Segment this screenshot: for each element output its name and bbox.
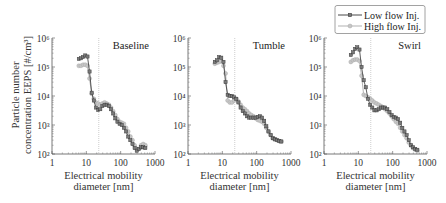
legend: Low flow Inj. High flow Inj. xyxy=(335,6,425,34)
x-tick-label: 1000 xyxy=(146,158,165,168)
data-point xyxy=(88,70,91,73)
data-point xyxy=(122,126,125,129)
x-tick-label: 10 xyxy=(354,158,364,168)
x-axis-label: Electrical mobility xyxy=(200,170,279,181)
data-point xyxy=(112,112,115,115)
y-tick-label: 10⁴ xyxy=(37,92,51,102)
data-point xyxy=(239,106,242,109)
data-point xyxy=(224,81,227,84)
data-point xyxy=(401,126,404,129)
data-point xyxy=(399,121,402,124)
data-point xyxy=(405,133,408,136)
data-point xyxy=(280,140,283,143)
data-point xyxy=(358,48,361,51)
data-point xyxy=(364,86,367,89)
data-point xyxy=(269,133,272,136)
data-point xyxy=(235,97,238,100)
data-point xyxy=(265,125,268,128)
panel-title: Tumble xyxy=(253,40,286,51)
x-axis-label: Electrical mobility xyxy=(64,170,143,181)
y-tick-label: 10⁶ xyxy=(37,34,50,44)
data-point xyxy=(131,142,134,145)
data-point xyxy=(237,101,240,104)
y-tick-label: 10⁶ xyxy=(173,34,186,44)
y-tick-label: 10⁶ xyxy=(309,34,322,44)
x-axis-label: Electrical mobility xyxy=(336,170,415,181)
data-point xyxy=(124,130,127,133)
data-point xyxy=(88,77,92,81)
data-point xyxy=(260,116,263,119)
data-point xyxy=(267,130,270,133)
data-point xyxy=(215,59,218,62)
y-tick-label: 10² xyxy=(173,150,186,160)
y-tick-label: 10³ xyxy=(37,121,50,131)
x-tick-label: 1000 xyxy=(282,158,301,168)
legend-label-high-flow: High flow Inj. xyxy=(364,21,421,32)
y-tick-label: 10² xyxy=(37,150,50,160)
y-axis-label: Particle number xyxy=(10,61,21,128)
data-point xyxy=(86,55,89,58)
data-point xyxy=(416,148,419,151)
data-point xyxy=(220,56,223,59)
y-tick-label: 10⁴ xyxy=(173,92,187,102)
legend-label-low-flow: Low flow Inj. xyxy=(364,10,419,21)
data-point xyxy=(129,139,132,142)
data-point xyxy=(407,139,410,142)
y-tick-label: 10⁵ xyxy=(173,63,186,73)
y-tick-label: 10² xyxy=(309,150,322,160)
data-point xyxy=(90,91,93,94)
square-marker-icon xyxy=(348,13,351,16)
data-point xyxy=(263,119,266,122)
panel-title: Swirl xyxy=(398,40,421,51)
panel-title: Baseline xyxy=(113,40,149,51)
data-point xyxy=(362,79,365,82)
x-tick-label: 10 xyxy=(218,158,228,168)
data-point xyxy=(388,110,391,113)
x-axis-label: diameter [nm] xyxy=(210,181,270,192)
y-tick-label: 10⁵ xyxy=(37,63,50,73)
y-tick-label: 10³ xyxy=(309,121,322,131)
x-axis-label: diameter [nm] xyxy=(74,181,134,192)
x-tick-label: 100 xyxy=(386,158,401,168)
x-axis-label: diameter [nm] xyxy=(346,181,406,192)
x-tick-label: 1 xyxy=(322,158,327,168)
y-tick-label: 10³ xyxy=(173,121,186,131)
x-tick-label: 1 xyxy=(186,158,191,168)
data-point xyxy=(109,108,112,111)
data-point xyxy=(396,117,399,120)
data-point xyxy=(107,104,110,107)
data-point xyxy=(114,117,117,120)
data-point xyxy=(99,108,102,111)
x-tick-label: 100 xyxy=(250,158,265,168)
x-tick-label: 1 xyxy=(50,158,55,168)
data-point xyxy=(351,51,354,54)
y-axis-label: concentration EEPS [#/cm³] xyxy=(22,36,33,154)
data-point xyxy=(127,135,130,138)
data-point xyxy=(222,60,225,63)
data-point xyxy=(360,65,363,68)
data-point xyxy=(403,130,406,133)
x-tick-label: 100 xyxy=(114,158,129,168)
x-tick-label: 10 xyxy=(82,158,92,168)
data-point xyxy=(144,146,147,149)
particle-size-distribution-figure: 110100100010²10³10⁴10⁵10⁶BaselineElectri… xyxy=(0,0,446,203)
y-tick-label: 10⁴ xyxy=(309,92,323,102)
y-tick-label: 10⁵ xyxy=(309,63,322,73)
x-tick-label: 1000 xyxy=(418,158,437,168)
circle-marker-icon xyxy=(348,24,352,28)
data-point xyxy=(366,97,369,100)
data-point xyxy=(92,99,95,102)
